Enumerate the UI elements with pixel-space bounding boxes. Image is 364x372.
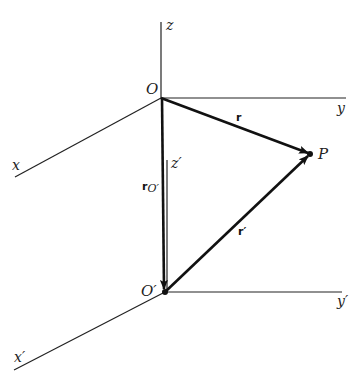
x-axis xyxy=(15,98,161,177)
y-axis-label: y xyxy=(336,100,346,116)
vector-r-label: r xyxy=(236,111,242,124)
vector-r-o-prime-subscript: O′ xyxy=(147,182,159,195)
z-prime-axis-label: z′ xyxy=(170,155,182,171)
point-o-prime-label: O′ xyxy=(141,282,157,300)
z-axis-label: z xyxy=(165,17,174,33)
vector-r-o-prime-label: rO′ xyxy=(142,180,159,195)
x-prime-axis-label: x′ xyxy=(14,349,26,365)
point-p-label: P xyxy=(317,145,329,163)
x-prime-axis xyxy=(14,292,165,370)
x-axis-label: x xyxy=(12,157,20,173)
vector-r xyxy=(161,98,308,153)
reference-frames-diagram: z O y x z′ P O′ y′ x′ r r′ rO′ xyxy=(0,0,364,372)
point-o-prime-dot xyxy=(162,289,168,295)
vector-r-prime-label: r′ xyxy=(238,225,246,238)
frame-o-axes xyxy=(15,22,346,177)
vectors xyxy=(161,98,308,292)
y-prime-axis-label: y′ xyxy=(336,293,349,309)
vector-r-prime xyxy=(165,156,308,292)
point-p-dot xyxy=(307,151,313,157)
vector-r-o-prime xyxy=(162,98,164,289)
point-o-label: O xyxy=(146,80,158,98)
frame-o-prime-axes xyxy=(14,160,342,370)
